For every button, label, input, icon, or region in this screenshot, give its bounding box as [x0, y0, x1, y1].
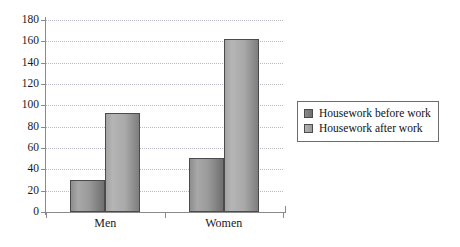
- y-axis-tick-label: 120: [22, 78, 39, 90]
- y-axis-tick-label: 60: [28, 142, 40, 154]
- y-axis-tick-label: 100: [22, 100, 39, 112]
- legend-item[interactable]: Housework after work: [304, 121, 431, 136]
- x-axis-tick: [46, 212, 47, 218]
- y-axis-tick: [41, 41, 46, 42]
- y-axis-tick: [41, 105, 46, 106]
- bar: [105, 113, 140, 212]
- legend-swatch-icon: [304, 109, 313, 118]
- x-axis-category-label: Men: [94, 216, 116, 231]
- bar-chart: 180160140120100806040200MenWomen Housewo…: [0, 0, 460, 247]
- x-axis-tick: [283, 212, 284, 218]
- y-axis-tick-label: 40: [28, 164, 40, 176]
- plot-area: 180160140120100806040200MenWomen: [46, 20, 283, 212]
- legend-item[interactable]: Housework before work: [304, 106, 431, 121]
- x-axis-end-cap: [285, 206, 286, 213]
- y-axis-tick: [41, 20, 46, 21]
- y-axis-tick: [41, 63, 46, 64]
- gridline: [46, 20, 283, 21]
- y-axis-tick-label: 0: [33, 206, 39, 218]
- y-axis-tick: [41, 169, 46, 170]
- y-axis-tick: [41, 148, 46, 149]
- x-axis-line: [46, 212, 286, 213]
- legend-item-label: Housework after work: [319, 123, 422, 135]
- chart-legend: Housework before work Housework after wo…: [297, 101, 439, 142]
- legend-item-label: Housework before work: [319, 108, 431, 120]
- y-axis-tick-label: 80: [28, 121, 40, 133]
- y-axis-tick-label: 180: [22, 14, 39, 26]
- y-axis-tick-label: 140: [22, 57, 39, 69]
- y-axis-tick-label: 160: [22, 36, 39, 48]
- y-axis-tick: [41, 127, 46, 128]
- bar: [189, 158, 224, 212]
- y-axis-tick: [41, 84, 46, 85]
- x-axis-category-label: Women: [205, 216, 242, 231]
- legend-swatch-icon: [304, 124, 313, 133]
- y-axis-tick: [41, 191, 46, 192]
- y-axis-tick-label: 20: [28, 185, 40, 197]
- bar: [70, 180, 105, 212]
- x-axis-tick: [165, 212, 166, 218]
- bar: [224, 39, 259, 212]
